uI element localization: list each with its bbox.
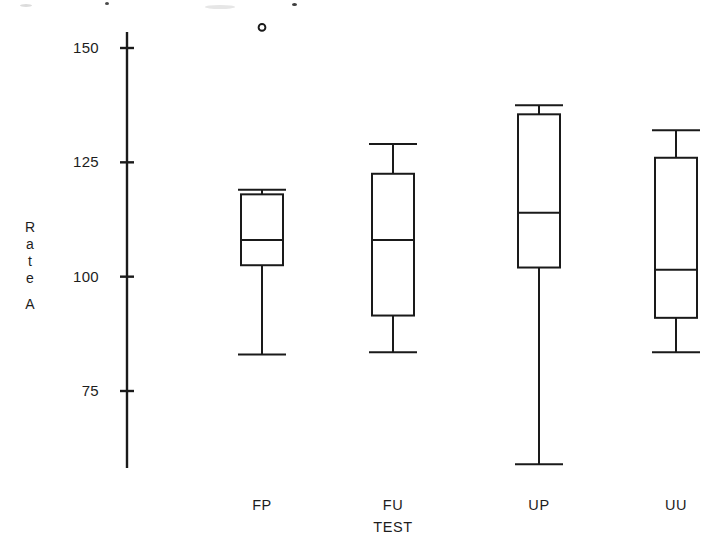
y-axis-title-spacer <box>18 287 42 296</box>
y-tick-label-75: 75 <box>44 382 99 399</box>
y-axis-title-letter: a <box>18 236 42 253</box>
y-axis-title-letter: A <box>18 296 42 313</box>
y-axis-title-letter: e <box>18 270 42 287</box>
x-tick-label-up: UP <box>509 497 569 513</box>
box-iqr <box>372 174 414 316</box>
plot-canvas <box>0 0 713 559</box>
y-axis-title-letter: t <box>18 253 42 270</box>
y-tick-label-150: 150 <box>44 39 99 56</box>
y-tick-label-100: 100 <box>44 268 99 285</box>
x-tick-label-uu: UU <box>646 497 706 513</box>
x-tick-label-fu: FU <box>363 497 423 513</box>
outlier-marker <box>259 24 266 31</box>
x-axis-title: TEST <box>363 519 423 535</box>
x-tick-label-fp: FP <box>232 497 292 513</box>
y-axis-title-letter: R <box>18 219 42 236</box>
y-tick-label-125: 125 <box>44 153 99 170</box>
y-axis-title: R a t e A <box>18 219 42 313</box>
box-plot-figure: 150 125 100 75 R a t e A FP FU UP UU TES… <box>0 0 713 559</box>
box-iqr <box>655 158 697 318</box>
box-iqr <box>518 114 560 267</box>
box-iqr <box>241 194 283 265</box>
